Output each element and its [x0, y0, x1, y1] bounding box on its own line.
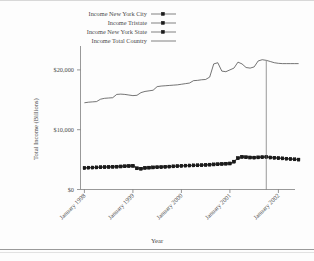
- data-point: [176, 165, 179, 168]
- data-point: [269, 156, 272, 159]
- data-point: [119, 165, 122, 168]
- data-point: [233, 160, 236, 163]
- data-point: [160, 166, 163, 169]
- x-tick-label-2: January 2000: [155, 192, 184, 221]
- x-axis-title: Year: [151, 237, 164, 244]
- data-point: [83, 167, 86, 170]
- legend-label-1: Income Tristate: [108, 19, 148, 26]
- chart-figure: Income New York City Income Tristate Inc…: [0, 0, 314, 261]
- data-point: [136, 167, 139, 170]
- legend-marker-0: [151, 12, 176, 15]
- data-point: [285, 157, 288, 160]
- data-point: [128, 165, 131, 168]
- data-point: [148, 166, 151, 169]
- data-point: [216, 163, 219, 166]
- data-point: [180, 165, 183, 168]
- data-point: [87, 166, 90, 169]
- y-tick-label-2: $20,000: [54, 66, 74, 73]
- data-point: [91, 166, 94, 169]
- legend-label-2: Income New York State: [87, 28, 147, 35]
- legend-marker-2: [151, 30, 176, 33]
- data-point: [249, 156, 252, 159]
- y-axis-title: Total Income (Billions): [32, 98, 40, 160]
- data-point: [192, 164, 195, 167]
- data-point: [152, 166, 155, 169]
- data-point: [289, 158, 292, 161]
- data-point: [196, 164, 199, 167]
- data-point: [168, 165, 171, 168]
- y-tick-label-0: $0: [68, 186, 74, 193]
- legend-label-0: Income New York City: [89, 10, 148, 17]
- data-point: [172, 165, 175, 168]
- data-point: [273, 157, 276, 160]
- chart-plot-area: [83, 60, 300, 190]
- data-point: [103, 166, 106, 169]
- data-point: [204, 164, 207, 167]
- data-point: [221, 163, 224, 166]
- data-point: [277, 157, 280, 160]
- y-tick-label-1: $10,000: [54, 126, 74, 133]
- data-point: [225, 162, 228, 165]
- x-tick-label-3: January 2001: [203, 192, 232, 221]
- data-point: [188, 164, 191, 167]
- series-income-new-york-state: [83, 156, 300, 170]
- chart-axes: [77, 46, 295, 193]
- data-point: [257, 156, 260, 159]
- x-tick-label-0: January 1998: [58, 192, 87, 221]
- data-point: [144, 167, 147, 170]
- data-point: [99, 166, 102, 169]
- data-point: [245, 156, 248, 159]
- data-point: [229, 162, 232, 165]
- data-point: [253, 156, 256, 159]
- data-point: [115, 165, 118, 168]
- data-point: [281, 157, 284, 160]
- data-point: [95, 166, 98, 169]
- data-point: [297, 158, 300, 161]
- data-point: [132, 165, 135, 168]
- data-point: [293, 158, 296, 161]
- x-tick-label-4: January 2002: [252, 192, 281, 221]
- data-point: [241, 156, 244, 159]
- data-point: [107, 166, 110, 169]
- data-point: [111, 166, 114, 169]
- x-tick-label-1: January 1999: [106, 192, 135, 221]
- legend-marker-1: [151, 21, 176, 24]
- legend-label-3: Income Total Country: [92, 37, 148, 44]
- data-point: [156, 166, 159, 169]
- data-point: [237, 157, 240, 160]
- data-point: [200, 164, 203, 167]
- data-point: [212, 163, 215, 166]
- data-point: [164, 166, 167, 169]
- data-point: [184, 164, 187, 167]
- chart-svg: Income New York City Income Tristate Inc…: [0, 0, 314, 261]
- data-point: [261, 156, 264, 159]
- chart-legend: Income New York City Income Tristate Inc…: [87, 10, 176, 44]
- data-point: [208, 163, 211, 166]
- data-point: [140, 167, 143, 170]
- data-point: [124, 165, 127, 168]
